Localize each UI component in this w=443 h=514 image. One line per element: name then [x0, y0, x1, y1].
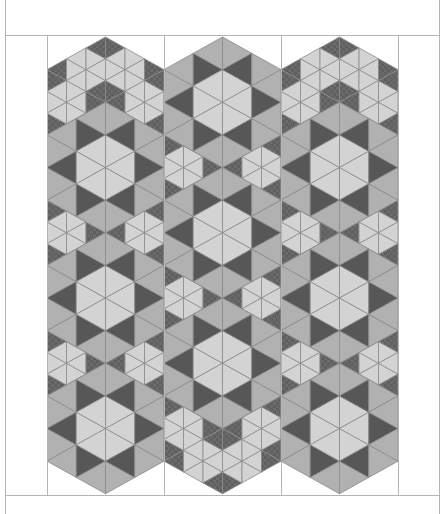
quilt-blocks [47, 37, 398, 494]
quilt-diagram [0, 0, 443, 514]
